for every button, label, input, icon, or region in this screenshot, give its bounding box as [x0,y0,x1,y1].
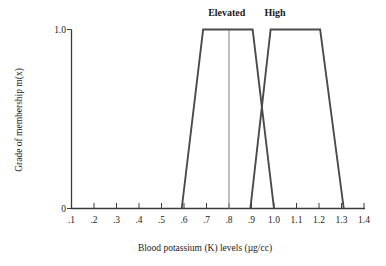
x-tick-label: 1.1 [291,215,303,225]
x-tick-label: .4 [135,215,142,225]
series-label-high: High [265,7,287,18]
x-tick-label: .9 [248,215,255,225]
series-label-elevated: Elevated [208,7,246,18]
x-axis-title: Blood potassium (K) levels (µg/cc) [138,243,272,254]
chart-canvas: Grade of membership m(x) 1.0 0 [0,0,386,266]
x-tick-label: .2 [90,215,97,225]
x-tick-marks [72,203,365,209]
x-tick-label: .7 [203,215,210,225]
x-tick-labels: .1 .2 .3 .4 .5 .6 .7 .8 .9 1.0 1.1 1.2 1… [68,215,370,225]
y-axis-title: Grade of membership m(x) [14,68,25,172]
x-tick-label: .1 [68,215,75,225]
x-tick-label: 1.4 [358,215,370,225]
x-tick-label: .5 [158,215,165,225]
y-tick-label-0: 0 [61,204,66,214]
x-tick-label: 1.0 [268,215,280,225]
x-tick-label: 1.2 [313,215,325,225]
fuzzy-membership-chart: Grade of membership m(x) 1.0 0 [0,0,386,266]
y-tick-label-1: 1.0 [54,25,66,35]
series-curve-high [250,30,343,209]
x-tick-label: 1.3 [336,215,348,225]
axis-lines [72,30,366,209]
x-tick-label: .6 [180,215,187,225]
x-tick-label: .3 [113,215,120,225]
x-tick-label: .8 [225,215,232,225]
